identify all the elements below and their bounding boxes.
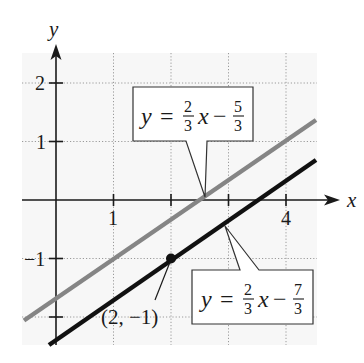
callout-bottom-den1: 3 bbox=[244, 300, 252, 317]
callout-top-minus: − bbox=[213, 103, 227, 129]
callout-bottom-lhs: y bbox=[199, 286, 212, 312]
callout-bottom-var: x bbox=[257, 286, 269, 312]
callout-top-var: x bbox=[197, 103, 209, 129]
point-label: (2, −1) bbox=[101, 305, 158, 329]
callout-top-num2: 5 bbox=[234, 98, 242, 115]
callout-top-eq: = bbox=[160, 103, 174, 129]
callout-top-den1: 3 bbox=[184, 117, 192, 134]
y-axis-label: y bbox=[47, 17, 59, 41]
tick-label-y2: 2 bbox=[35, 72, 45, 94]
chart: x y 1 4 2 1 −1 (2, −1) y = 2 3 x − 5 3 y… bbox=[0, 0, 364, 363]
callout-top-lhs: y bbox=[139, 103, 152, 129]
tick-label-x4: 4 bbox=[281, 207, 291, 229]
tick-label-y1: 1 bbox=[36, 131, 46, 153]
callout-top-num1: 2 bbox=[184, 98, 192, 115]
point-marker bbox=[166, 254, 176, 264]
callout-bottom-eq: = bbox=[220, 286, 234, 312]
callout-bottom-num1: 2 bbox=[244, 281, 252, 298]
tick-label-ym1: −1 bbox=[24, 248, 45, 270]
callout-bottom-num2: 7 bbox=[294, 281, 302, 298]
callout-top-den2: 3 bbox=[234, 117, 242, 134]
callout-bottom-minus: − bbox=[273, 286, 287, 312]
x-axis-label: x bbox=[346, 188, 357, 212]
tick-label-x1: 1 bbox=[108, 207, 118, 229]
callout-bottom-den2: 3 bbox=[294, 300, 302, 317]
